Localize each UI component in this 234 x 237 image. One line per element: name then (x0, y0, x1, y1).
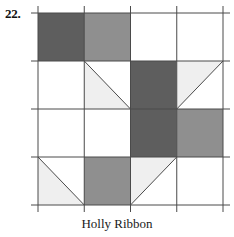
quilt-cell-r1c1 (38, 13, 84, 61)
quilt-cell-r1c3 (131, 13, 177, 61)
quilt-cell-r1c4 (177, 13, 223, 61)
quilt-cell-r1c2 (84, 13, 130, 61)
quilt-cell-r2c1 (38, 61, 84, 109)
quilt-cell-r4c2 (84, 157, 130, 205)
quilt-block-svg (30, 6, 230, 213)
quilt-block-figure: 22. Holly Ribbon (0, 0, 234, 237)
block-caption: Holly Ribbon (0, 216, 234, 232)
quilt-cell-r4c4 (177, 157, 223, 205)
quilt-cell-r3c4 (177, 109, 223, 157)
quilt-cell-r3c3 (131, 109, 177, 157)
quilt-cell-r2c3 (131, 61, 177, 109)
quilt-block-diagram (30, 6, 230, 213)
figure-number: 22. (5, 7, 21, 20)
quilt-cell-r3c2 (84, 109, 130, 157)
quilt-cell-r3c1 (38, 109, 84, 157)
